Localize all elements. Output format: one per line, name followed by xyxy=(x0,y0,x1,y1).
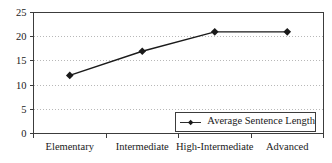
y-tick-label: 15 xyxy=(16,55,27,66)
x-category-label: Advanced xyxy=(266,141,309,152)
chart-canvas: 0510152025ElementaryIntermediateHigh-Int… xyxy=(0,0,332,163)
data-point-marker xyxy=(138,47,146,55)
data-point-marker xyxy=(211,28,219,36)
y-tick-label: 10 xyxy=(16,80,27,91)
x-category-label: High-Intermediate xyxy=(176,141,254,152)
data-point-marker xyxy=(283,28,291,36)
data-point-marker xyxy=(66,72,74,80)
legend-label: Average Sentence Length xyxy=(207,116,315,128)
y-tick-label: 20 xyxy=(16,31,27,42)
average-sentence-length-chart: 0510152025ElementaryIntermediateHigh-Int… xyxy=(0,0,332,163)
x-category-label: Elementary xyxy=(46,141,95,152)
y-tick-label: 0 xyxy=(21,128,26,139)
y-tick-label: 5 xyxy=(21,104,26,115)
y-tick-label: 25 xyxy=(16,7,27,18)
x-category-label: Intermediate xyxy=(116,141,169,152)
series-line xyxy=(70,32,288,76)
legend: Average Sentence Length xyxy=(175,112,316,132)
legend-line-marker-icon xyxy=(180,118,201,127)
